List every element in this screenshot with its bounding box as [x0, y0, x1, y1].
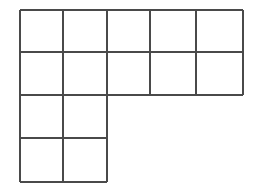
grid-cell-r2c5 — [196, 52, 243, 95]
grid-cell-r2c3 — [107, 52, 150, 95]
grid-cell-r1c4 — [150, 10, 196, 52]
grid-cell-r1c1 — [20, 10, 63, 52]
grid-cell-r3c2 — [63, 95, 107, 138]
grid-cell-r2c1 — [20, 52, 63, 95]
grid-cell-r1c2 — [63, 10, 107, 52]
grid-cell-r4c2 — [63, 138, 107, 182]
grid-cell-r3c1 — [20, 95, 63, 138]
grid-cell-r2c4 — [150, 52, 196, 95]
grid-cell-r4c1 — [20, 138, 63, 182]
grid-cell-r1c3 — [107, 10, 150, 52]
grid-figure — [0, 0, 266, 192]
grid-cell-r2c2 — [63, 52, 107, 95]
figure-canvas — [0, 0, 266, 192]
grid-cell-r1c5 — [196, 10, 243, 52]
